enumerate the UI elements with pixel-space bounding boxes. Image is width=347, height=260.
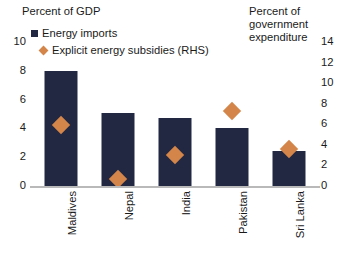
bar-group [146, 42, 203, 186]
marker-energy-subsidies [223, 102, 241, 120]
bar-group [89, 42, 146, 186]
bar-group [261, 42, 318, 186]
right-tick-label: 0 [321, 180, 339, 191]
x-axis-label: Pakistan [237, 191, 249, 234]
square-marker-icon [31, 30, 38, 37]
legend-item-energy-imports: Energy imports [31, 27, 117, 39]
right-axis-title: Percent of government expenditure [249, 5, 319, 45]
chart-container: Percent of GDP Percent of government exp… [0, 0, 347, 260]
right-tick-label: 8 [321, 98, 339, 109]
x-axis-label: Nepal [123, 191, 135, 220]
plot-area [32, 42, 318, 186]
x-axis-label: Sri Lanka [294, 191, 306, 238]
x-axis-label: India [180, 191, 192, 215]
right-tick-label: 10 [321, 77, 339, 88]
right-tick-label: 6 [321, 118, 339, 129]
left-tick-label: 0 [8, 180, 26, 191]
legend-label-energy-imports: Energy imports [42, 27, 117, 39]
left-axis-title: Percent of GDP [22, 5, 100, 18]
left-tick-label: 6 [8, 94, 26, 105]
right-tick-label: 14 [321, 36, 339, 47]
right-tick-label: 4 [321, 139, 339, 150]
left-tick-label: 8 [8, 65, 26, 76]
bar-group [204, 42, 261, 186]
right-tick-label: 12 [321, 57, 339, 68]
right-tick-label: 2 [321, 159, 339, 170]
x-axis-label: Maldives [66, 191, 78, 235]
left-tick-label: 10 [8, 36, 26, 47]
x-axis-line [30, 186, 320, 188]
bar-group [32, 42, 89, 186]
bar-energy-imports [216, 128, 249, 186]
left-tick-label: 2 [8, 151, 26, 162]
left-tick-label: 4 [8, 122, 26, 133]
